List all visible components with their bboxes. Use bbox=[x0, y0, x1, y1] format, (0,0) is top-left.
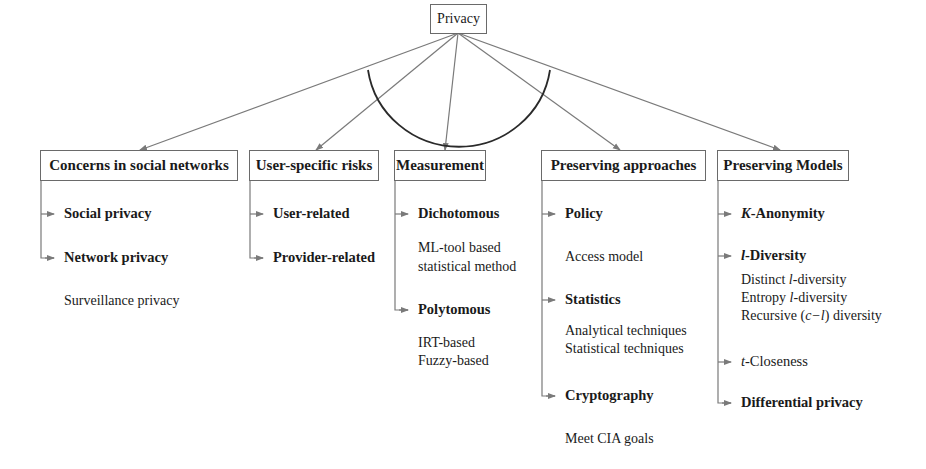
text: -diversity bbox=[794, 290, 848, 305]
item-provider-related: Provider-related bbox=[273, 249, 375, 266]
item-dichotomous: Dichotomous bbox=[418, 205, 499, 222]
category-measurement: Measurement bbox=[394, 150, 486, 181]
item-social-privacy: Social privacy bbox=[64, 205, 151, 222]
text-italic: c−l bbox=[805, 308, 825, 323]
detail-irt-based: IRT-based bbox=[418, 334, 475, 352]
root-node-privacy: Privacy bbox=[430, 4, 487, 34]
category-preserving-models: Preserving Models bbox=[717, 150, 849, 181]
item-polytomous: Polytomous bbox=[418, 301, 491, 318]
item-network-privacy: Network privacy bbox=[64, 249, 168, 266]
detail-analytical-techniques: Analytical techniques bbox=[565, 322, 687, 340]
text: ) diversity bbox=[825, 308, 882, 323]
detail-fuzzy-based: Fuzzy-based bbox=[418, 352, 489, 370]
item-k-anonymity: K-Anonymity bbox=[741, 205, 825, 222]
detail-surveillance-privacy: Surveillance privacy bbox=[64, 292, 179, 310]
item-differential-privacy: Differential privacy bbox=[741, 394, 863, 411]
item-l-diversity: l-Diversity bbox=[741, 247, 806, 264]
item-user-related: User-related bbox=[273, 205, 350, 222]
t-closeness-label: -Closeness bbox=[745, 353, 808, 369]
l-diversity-label: -Diversity bbox=[745, 247, 806, 263]
category-preserving-approaches: Preserving approaches bbox=[541, 150, 706, 181]
detail-statistical-method: statistical method bbox=[418, 258, 516, 276]
detail-access-model: Access model bbox=[565, 248, 643, 266]
text: -diversity bbox=[793, 272, 847, 287]
text: Distinct bbox=[741, 272, 789, 287]
category-user-specific-risks: User-specific risks bbox=[249, 150, 379, 181]
detail-statistical-techniques: Statistical techniques bbox=[565, 340, 684, 358]
k-anonymity-label: -Anonymity bbox=[751, 205, 825, 221]
item-statistics: Statistics bbox=[565, 291, 621, 308]
detail-recursive-c-l-diversity: Recursive (c−l) diversity bbox=[741, 307, 882, 325]
category-concerns-in-social-networks: Concerns in social networks bbox=[40, 150, 238, 181]
text: Recursive ( bbox=[741, 308, 805, 323]
detail-ml-tool-based: ML-tool based bbox=[418, 239, 501, 257]
grouping-arc bbox=[368, 70, 550, 147]
detail-meet-cia-goals: Meet CIA goals bbox=[565, 430, 654, 448]
item-policy: Policy bbox=[565, 205, 603, 222]
detail-entropy-l-diversity: Entropy l-diversity bbox=[741, 289, 847, 307]
text: Entropy bbox=[741, 290, 790, 305]
item-t-closeness: t-Closeness bbox=[741, 353, 808, 370]
k-prefix: K bbox=[741, 205, 751, 221]
item-cryptography: Cryptography bbox=[565, 387, 654, 404]
detail-distinct-l-diversity: Distinct l-diversity bbox=[741, 271, 846, 289]
